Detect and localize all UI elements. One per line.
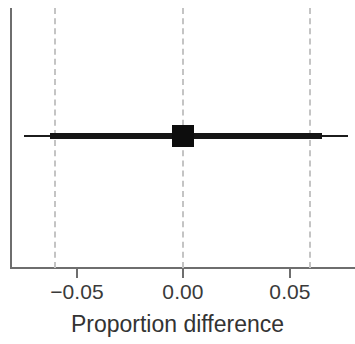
x-axis-title: Proportion difference — [0, 310, 355, 338]
x-axis-tick-label-2: 0.05 — [245, 280, 335, 304]
point-estimate-marker — [172, 125, 194, 147]
x-axis-tick-1 — [182, 269, 184, 278]
x-axis-tick-2 — [289, 269, 291, 278]
x-axis-tick-label-0: −0.05 — [32, 280, 122, 304]
forest-plot-figure: −0.05 0.00 0.05 Proportion difference — [0, 0, 355, 344]
x-axis-tick-0 — [76, 269, 78, 278]
x-axis-tick-label-1: 0.00 — [138, 280, 228, 304]
y-axis-line — [10, 8, 12, 269]
